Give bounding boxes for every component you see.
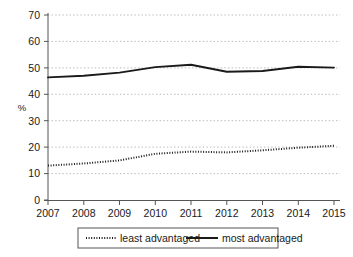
y-axis-tick-label: 60 xyxy=(28,35,40,47)
series-line-least-advantaged xyxy=(48,146,334,166)
chart-container: 010203040506070 200720082009201020112012… xyxy=(0,0,353,257)
data-series-group xyxy=(48,65,334,166)
x-axis-tick-label: 2014 xyxy=(287,207,311,219)
x-axis-tick-label: 2012 xyxy=(215,207,239,219)
gridline-group xyxy=(48,15,340,174)
series-line-most-advantaged xyxy=(48,65,334,78)
x-axis-label-group: 200720082009201020112012201320142015 xyxy=(36,207,346,219)
y-axis-tick-group xyxy=(44,15,48,200)
legend-label: most advantaged xyxy=(222,232,303,244)
y-axis-tick-label: 20 xyxy=(28,141,40,153)
x-axis-tick-label: 2009 xyxy=(108,207,132,219)
y-axis-tick-label: 0 xyxy=(34,194,40,206)
y-axis-tick-label: 30 xyxy=(28,115,40,127)
x-axis-tick-label: 2008 xyxy=(72,207,96,219)
y-axis-tick-label: 40 xyxy=(28,88,40,100)
y-axis-tick-label: 10 xyxy=(28,167,40,179)
x-axis-tick-label: 2011 xyxy=(180,207,203,219)
x-axis-tick-label: 2015 xyxy=(322,207,346,219)
x-axis-tick-label: 2007 xyxy=(36,207,60,219)
y-axis-tick-label: 70 xyxy=(28,9,40,21)
x-axis-tick-label: 2010 xyxy=(144,207,168,219)
y-axis-title: % xyxy=(18,102,27,113)
x-axis-tick-label: 2013 xyxy=(251,207,275,219)
y-axis-label-group: 010203040506070 xyxy=(28,9,40,206)
y-axis-tick-label: 50 xyxy=(28,62,40,74)
line-chart: 010203040506070 200720082009201020112012… xyxy=(0,0,353,257)
